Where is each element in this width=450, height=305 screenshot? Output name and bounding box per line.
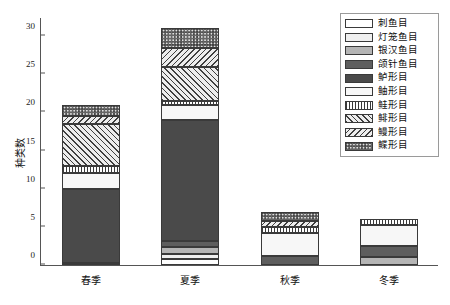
- legend-label: 颌针鱼目: [378, 60, 418, 70]
- legend-swatch-鲱形目: [345, 114, 373, 123]
- legend-label: 刺鱼目: [378, 19, 408, 29]
- bar-segment-刺鱼目[interactable]: [62, 263, 120, 265]
- legend-item-鲱形目[interactable]: 鲱形目: [345, 112, 434, 126]
- bar-segment-鲽形目[interactable]: [261, 212, 319, 221]
- bar-segment-灯笼鱼目[interactable]: [161, 254, 219, 259]
- bar-segment-鲽形目[interactable]: [62, 105, 120, 116]
- bar-segment-鲑形目[interactable]: [62, 166, 120, 174]
- bar-segment-鲑形目[interactable]: [261, 227, 319, 233]
- bar-segment-鳗形目[interactable]: [161, 48, 219, 67]
- legend-swatch-鲈形目: [345, 74, 373, 83]
- bar-segment-刺鱼目[interactable]: [161, 259, 219, 265]
- bar-segment-颌针鱼目[interactable]: [360, 246, 418, 257]
- legend-swatch-颌针鱼目: [345, 60, 373, 69]
- y-tick-mark: [41, 187, 45, 188]
- bar-segment-银汉鱼目[interactable]: [161, 247, 219, 253]
- legend-label: 鲉形目: [378, 87, 408, 97]
- bar-segment-鲉形目[interactable]: [261, 233, 319, 256]
- legend-swatch-鲑形目: [345, 101, 373, 110]
- x-tick-label-夏季: 夏季: [180, 272, 200, 287]
- legend-item-刺鱼目[interactable]: 刺鱼目: [345, 17, 434, 31]
- legend-label: 鲑形目: [378, 101, 408, 111]
- bar-segment-鲉形目[interactable]: [62, 173, 120, 188]
- chart-legend: 刺鱼目灯笼鱼目银汉鱼目颌针鱼目鲈形目鲉形目鲑形目鲱形目鳗形目鲽形目: [340, 13, 439, 157]
- legend-swatch-鲽形目: [345, 142, 373, 151]
- y-tick-label: 5: [31, 212, 42, 222]
- legend-swatch-鳗形目: [345, 128, 373, 137]
- legend-item-鲑形目[interactable]: 鲑形目: [345, 99, 434, 113]
- legend-item-鳗形目[interactable]: 鳗形目: [345, 126, 434, 140]
- stacked-bar-chart: 种类数 051015202530春季夏季秋季冬季 刺鱼目灯笼鱼目银汉鱼目颌针鱼目…: [0, 0, 450, 305]
- bar-夏季[interactable]: [161, 17, 219, 265]
- bar-segment-鲽形目[interactable]: [161, 28, 219, 47]
- legend-item-银汉鱼目[interactable]: 银汉鱼目: [345, 44, 434, 58]
- y-tick-label: 25: [26, 59, 41, 69]
- legend-label: 鲱形目: [378, 114, 408, 124]
- y-tick-mark: [41, 35, 45, 36]
- bar-segment-银汉鱼目[interactable]: [360, 257, 418, 265]
- y-tick-mark: [41, 264, 45, 265]
- x-tick-label-春季: 春季: [81, 272, 101, 287]
- legend-label: 鲈形目: [378, 73, 408, 83]
- legend-label: 灯笼鱼目: [378, 33, 418, 43]
- bar-segment-颌针鱼目[interactable]: [261, 256, 319, 265]
- legend-swatch-刺鱼目: [345, 19, 373, 28]
- y-tick-label: 30: [26, 21, 41, 31]
- legend-swatch-银汉鱼目: [345, 46, 373, 55]
- y-tick-label: 0: [31, 250, 42, 260]
- legend-item-灯笼鱼目[interactable]: 灯笼鱼目: [345, 31, 434, 45]
- legend-item-颌针鱼目[interactable]: 颌针鱼目: [345, 58, 434, 72]
- legend-item-鲈形目[interactable]: 鲈形目: [345, 71, 434, 85]
- bar-segment-鳗形目[interactable]: [261, 221, 319, 227]
- bar-segment-鲱形目[interactable]: [161, 67, 219, 101]
- bar-segment-颌针鱼目[interactable]: [161, 241, 219, 248]
- legend-label: 鳗形目: [378, 128, 408, 138]
- bar-segment-鳗形目[interactable]: [62, 116, 120, 124]
- legend-swatch-鲉形目: [345, 87, 373, 96]
- bar-秋季[interactable]: [261, 17, 319, 265]
- y-tick-mark: [41, 149, 45, 150]
- y-tick-mark: [41, 225, 45, 226]
- legend-label: 鲽形目: [378, 141, 408, 151]
- y-tick-label: 15: [26, 136, 41, 146]
- y-tick-label: 20: [26, 97, 41, 107]
- x-tick-label-秋季: 秋季: [280, 272, 300, 287]
- legend-item-鲽形目[interactable]: 鲽形目: [345, 139, 434, 153]
- y-axis-label: 种类数: [12, 138, 27, 168]
- legend-item-鲉形目[interactable]: 鲉形目: [345, 85, 434, 99]
- legend-label: 银汉鱼目: [378, 46, 418, 56]
- bar-segment-鲉形目[interactable]: [161, 105, 219, 120]
- y-tick-mark: [41, 111, 45, 112]
- bar-segment-鲑形目[interactable]: [360, 219, 418, 225]
- y-tick-mark: [41, 73, 45, 74]
- bar-segment-鲉形目[interactable]: [360, 225, 418, 246]
- bar-segment-鲑形目[interactable]: [161, 101, 219, 105]
- bar-segment-鲈形目[interactable]: [161, 120, 219, 241]
- bar-春季[interactable]: [62, 17, 120, 265]
- bar-segment-鲈形目[interactable]: [62, 189, 120, 263]
- y-tick-label: 10: [26, 174, 41, 184]
- bar-segment-鲱形目[interactable]: [62, 124, 120, 166]
- legend-swatch-灯笼鱼目: [345, 33, 373, 42]
- x-tick-label-冬季: 冬季: [379, 272, 399, 287]
